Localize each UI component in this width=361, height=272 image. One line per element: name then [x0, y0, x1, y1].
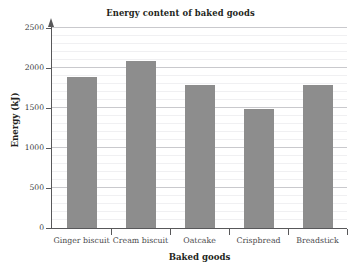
x-axis-category-label: Ginger biscuit	[52, 236, 111, 245]
y-axis-tick	[46, 68, 52, 69]
x-axis-title: Baked goods	[52, 252, 347, 262]
x-axis-category-label: Oatcake	[170, 236, 229, 245]
bar-chart: Energy content of baked goods 0500100015…	[0, 0, 361, 272]
bar-slot	[288, 28, 347, 228]
x-axis-tick	[229, 229, 230, 235]
bar[interactable]	[67, 77, 97, 228]
y-axis-tick	[46, 188, 52, 189]
x-axis-line	[51, 228, 347, 229]
x-axis-tick	[111, 229, 112, 235]
bar[interactable]	[185, 85, 215, 228]
bar[interactable]	[126, 61, 156, 228]
y-axis-tick-label: 0	[0, 223, 44, 232]
y-axis-tick	[46, 148, 52, 149]
chart-title: Energy content of baked goods	[0, 8, 361, 18]
x-axis-tick	[170, 229, 171, 235]
y-axis-tick	[46, 228, 52, 229]
y-axis-tick-label: 1500	[0, 103, 44, 112]
plot-area	[52, 28, 347, 228]
y-axis-tick-label: 2000	[0, 63, 44, 72]
bar-slot	[111, 28, 170, 228]
bar-slot	[170, 28, 229, 228]
y-axis-tick	[46, 28, 52, 29]
x-axis-category-label: Breadstick	[288, 236, 347, 245]
x-axis-category-label: Cream biscuit	[111, 236, 170, 245]
y-axis-title: Energy (kJ)	[10, 75, 20, 165]
x-axis-tick	[288, 229, 289, 235]
y-axis-tick	[46, 108, 52, 109]
x-axis-category-label: Crispbread	[229, 236, 288, 245]
bar[interactable]	[303, 85, 333, 228]
y-axis-tick-label: 500	[0, 183, 44, 192]
bar-slot	[229, 28, 288, 228]
bars-group	[52, 28, 347, 228]
bar-slot	[52, 28, 111, 228]
y-axis-tick-label: 1000	[0, 143, 44, 152]
bar[interactable]	[244, 109, 274, 228]
y-axis-tick-label: 2500	[0, 23, 44, 32]
x-axis-tick	[347, 229, 348, 235]
y-axis-line	[51, 26, 52, 229]
